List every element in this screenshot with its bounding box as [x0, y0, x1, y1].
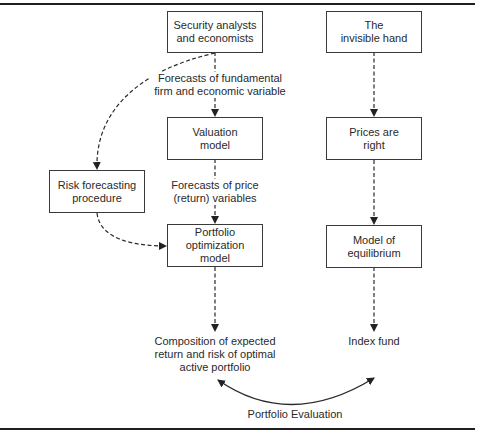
node-risk-forecasting: Risk forecasting procedure — [49, 170, 145, 213]
evaluation-label: Portfolio Evaluation — [240, 408, 350, 421]
node-portfolio-optimization: Portfolio optimization model — [167, 224, 263, 267]
node-valuation-model: Valuation model — [167, 117, 263, 160]
node-label: Valuation model — [192, 126, 237, 152]
node-label: Model of equilibrium — [347, 234, 400, 260]
node-model-equilibrium: Model of equilibrium — [326, 225, 422, 268]
evaluation-arc — [218, 378, 374, 405]
node-label: Security analysts and economists — [173, 19, 256, 45]
edge-label-fundamental-forecasts: Forecasts of fundamental firm and econom… — [150, 72, 290, 98]
output-index-fund: Index fund — [334, 335, 414, 348]
node-label: Portfolio optimization model — [186, 226, 245, 265]
node-label: The invisible hand — [341, 19, 408, 45]
node-label: Risk forecasting procedure — [58, 179, 136, 205]
output-active-portfolio: Composition of expected return and risk … — [145, 335, 285, 374]
edge-risk-to-portfolio — [97, 213, 166, 246]
edge-label-price-forecasts: Forecasts of price (return) variables — [165, 179, 265, 205]
node-invisible-hand: The invisible hand — [326, 11, 422, 53]
node-label: Prices are right — [349, 126, 399, 152]
node-security-analysts: Security analysts and economists — [167, 11, 263, 53]
node-prices-right: Prices are right — [326, 117, 422, 160]
